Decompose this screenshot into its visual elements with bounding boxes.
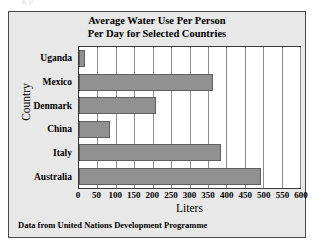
bar-china: [79, 121, 110, 138]
bar-row: [79, 141, 300, 165]
x-tick-label: 100: [108, 190, 122, 200]
chart-title-line-2: Per Day for Selected Countries: [9, 28, 305, 41]
x-tick-label: 200: [146, 190, 160, 200]
bars-layer: [79, 47, 300, 188]
y-tick-label: Australia: [9, 165, 76, 189]
source-note: Data from United Nations Development Pro…: [18, 220, 207, 230]
bar-australia: [79, 168, 261, 185]
bar-mexico: [79, 74, 213, 91]
y-tick-label: Denmark: [9, 94, 76, 118]
bar-uganda: [79, 50, 85, 67]
x-tick-label: 300: [183, 190, 197, 200]
gridline: [300, 47, 301, 188]
chart-title-line-1: Average Water Use Per Person: [9, 15, 305, 28]
bar-row: [79, 47, 300, 71]
x-tick-label: 550: [276, 190, 290, 200]
x-tick-label: 500: [257, 190, 271, 200]
y-tick-label: Mexico: [9, 70, 76, 94]
plot-area: [78, 46, 301, 189]
x-tick-label: 350: [201, 190, 215, 200]
bar-italy: [79, 144, 221, 161]
x-tick-label: 250: [164, 190, 178, 200]
x-tick-label: 50: [92, 190, 101, 200]
y-tick-label: Italy: [9, 141, 76, 165]
x-tick-label: 400: [220, 190, 234, 200]
y-tick-label: Uganda: [9, 46, 76, 70]
bar-row: [79, 94, 300, 118]
x-tick-label: 450: [239, 190, 253, 200]
page-top-text-fragment: g p: [22, 0, 34, 5]
bar-row: [79, 165, 300, 189]
x-axis-title: Liters: [78, 202, 301, 214]
bar-denmark: [79, 97, 156, 114]
chart-figure-panel: Average Water Use Per Person Per Day for…: [8, 11, 306, 238]
y-tick-label: China: [9, 117, 76, 141]
x-axis-tick-labels: 050100150200250300350400450500550600: [78, 190, 301, 202]
chart-title: Average Water Use Per Person Per Day for…: [9, 15, 305, 40]
bar-row: [79, 71, 300, 95]
x-tick-label: 150: [127, 190, 141, 200]
bar-row: [79, 118, 300, 142]
x-tick-label: 600: [294, 190, 308, 200]
y-axis-tick-labels: Uganda Mexico Denmark China Italy Austra…: [9, 46, 76, 189]
x-tick-label: 0: [76, 190, 81, 200]
